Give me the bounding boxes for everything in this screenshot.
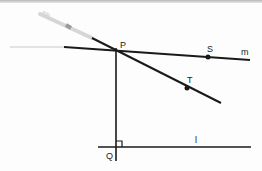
label-p: P (120, 40, 126, 50)
label-s: S (207, 44, 213, 54)
line-pt (92, 38, 221, 103)
line-m (64, 47, 250, 60)
diagram-svg: ✎ P S T Q m l (0, 0, 262, 171)
point-t (185, 86, 190, 91)
geometry-diagram: ✎ P S T Q m l (0, 0, 262, 171)
label-l: l (195, 135, 197, 145)
label-m: m (241, 47, 249, 57)
right-angle-marker (116, 141, 122, 147)
label-q: Q (106, 151, 113, 161)
point-s (206, 55, 211, 60)
pencil-icon: ✎ (40, 7, 92, 38)
label-t: T (187, 75, 193, 85)
